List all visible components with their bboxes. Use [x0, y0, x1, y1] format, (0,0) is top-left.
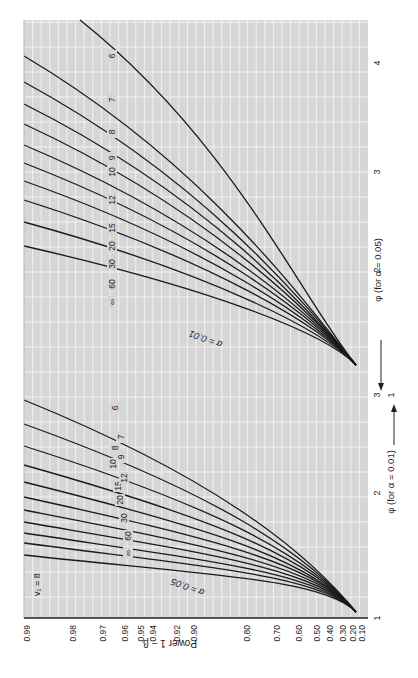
power-tick: 0.96	[120, 625, 130, 642]
power-tick: 0.40	[325, 625, 335, 642]
curve-label: 12	[107, 195, 117, 205]
phi-axis-ticks: 1231234	[372, 60, 396, 620]
power-tick: 0.97	[98, 625, 108, 642]
power-tick: 0.20	[348, 625, 358, 642]
curve-label: 8	[107, 129, 117, 134]
power-tick: 0.70	[272, 625, 282, 642]
curve-label: 7	[107, 97, 117, 102]
curve-label: 30	[107, 259, 117, 269]
curve-label: 10	[107, 167, 117, 177]
curve-label: 30	[119, 513, 129, 523]
arrow-upper	[378, 340, 384, 391]
numerator-df-label: v₁ = 8	[32, 573, 42, 596]
curve-label: ∞	[123, 550, 133, 556]
curve-label: 15	[107, 223, 117, 233]
curve-label: 6	[110, 405, 120, 410]
phi-tick-lower: 1	[372, 615, 382, 620]
phi-axis-label-lower: φ (for α = 0.01)	[385, 450, 396, 514]
curve-label: 20	[107, 241, 117, 251]
phi-tick-upper: 4	[372, 60, 382, 65]
power-tick: 0.99	[22, 625, 32, 642]
power-axis-label: Power 1 − β	[143, 638, 197, 649]
curve-label: 20	[115, 495, 125, 505]
phi-tick-lower: 2	[372, 490, 382, 495]
power-tick: 0.30	[338, 625, 348, 642]
power-tick: 0.98	[68, 625, 78, 642]
power-tick: 0.10	[357, 625, 367, 642]
phi-axis-label-upper: φ (for α = 0.05)	[372, 238, 383, 302]
phi-tick-upper: 1	[386, 392, 396, 397]
curve-label: ∞	[107, 299, 117, 305]
curve-label: 8	[110, 445, 120, 450]
curve-label: 7	[116, 434, 126, 439]
phi-tick-upper: 3	[372, 169, 382, 174]
curve-label: 9	[116, 454, 126, 459]
power-chart: ∞6030201512109876∞6030201512109876 0.100…	[0, 0, 418, 678]
phi-tick-lower: 3	[372, 392, 382, 397]
arrow-lower	[391, 404, 397, 445]
curve-label: 9	[107, 155, 117, 160]
curve-label: 12	[119, 473, 129, 483]
curve-label: 6	[107, 53, 117, 58]
power-tick: 0.50	[312, 625, 322, 642]
power-tick: 0.80	[242, 625, 252, 642]
curve-label: 60	[123, 531, 133, 541]
power-tick: 0.60	[294, 625, 304, 642]
curve-label: 60	[107, 279, 117, 289]
